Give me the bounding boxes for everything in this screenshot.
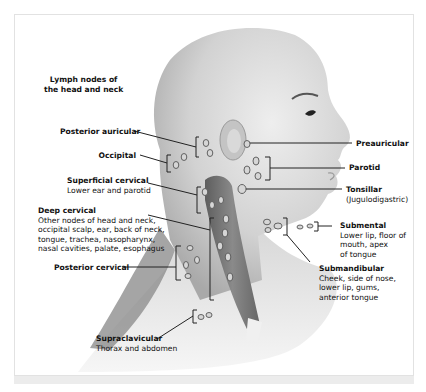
label-name: Preauricular	[356, 139, 409, 149]
label-supraclavicular: Supraclavicular Thorax and abdomen	[96, 334, 177, 353]
label-tonsillar: Tonsillar (Jugulodigastric)	[346, 185, 408, 204]
label-desc-line: tongue, trachea, nasopharynx,	[38, 235, 165, 245]
label-desc-line: lower lip, gums,	[319, 283, 396, 293]
label-desc-line: nasal cavities, palate, esophagus	[38, 244, 165, 254]
label-posterior-cervical: Posterior cervical	[54, 263, 129, 273]
label-name: Submental	[340, 221, 406, 231]
label-name: Posterior cervical	[54, 263, 129, 273]
label-name: Submandibular	[319, 264, 396, 274]
label-posterior-auricular: Posterior auricular	[60, 127, 132, 137]
label-superficial-cervical: Superficial cervical Lower ear and parot…	[67, 176, 151, 195]
label-preauricular: Preauricular	[356, 139, 409, 149]
label-submandibular: Submandibular Cheek, side of nose, lower…	[319, 264, 396, 302]
label-name: Occipital	[90, 151, 136, 161]
head-neck-silhouette	[154, 28, 350, 300]
label-desc-line: Cheek, side of nose,	[319, 274, 396, 284]
label-name: Tonsillar	[346, 185, 408, 195]
label-occipital: Occipital	[90, 151, 136, 161]
label-desc-line: occipital scalp, ear, back of neck,	[38, 225, 165, 235]
label-desc: Thorax and abdomen	[96, 344, 177, 354]
label-deep-cervical: Deep cervical Other nodes of head and ne…	[38, 206, 165, 254]
label-desc-line: anterior tongue	[319, 293, 396, 303]
label-name: Deep cervical	[38, 206, 165, 216]
label-name: Superficial cervical	[67, 176, 151, 186]
label-desc: (Jugulodigastric)	[346, 195, 408, 205]
label-desc: Lower ear and parotid	[67, 186, 151, 196]
figure-title: Lymph nodes of the head and neck	[44, 75, 123, 94]
title-line-1: Lymph nodes of	[44, 75, 123, 85]
label-name: Parotid	[349, 163, 380, 173]
title-line-2: the head and neck	[44, 85, 123, 95]
label-desc-line: Lower lip, floor of	[340, 231, 406, 241]
label-name: Posterior auricular	[60, 127, 132, 137]
label-submental: Submental Lower lip, floor of mouth, ape…	[340, 221, 406, 259]
label-desc-line: Other nodes of head and neck,	[38, 216, 165, 226]
ear-inner	[227, 129, 241, 153]
label-parotid: Parotid	[349, 163, 380, 173]
label-name: Supraclavicular	[96, 334, 177, 344]
label-desc-line: of tongue	[340, 250, 406, 260]
label-desc-line: mouth, apex	[340, 240, 406, 250]
